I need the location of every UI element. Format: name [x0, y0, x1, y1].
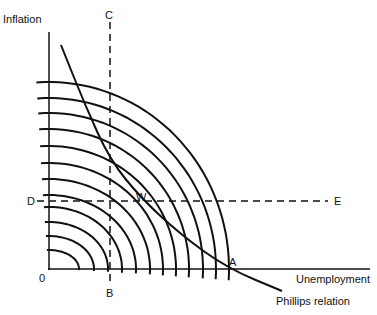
- indifference-arc: [45, 222, 108, 272]
- point-w-label: W: [136, 192, 146, 203]
- indifference-curves: [36, 82, 229, 280]
- x-axis-label: Unemployment: [296, 274, 370, 285]
- indifference-arc: [42, 179, 150, 274]
- y-axis-label: Inflation: [3, 14, 42, 25]
- diagram-canvas: [0, 0, 377, 315]
- origin-label: 0: [39, 273, 45, 284]
- indifference-arc: [46, 236, 94, 271]
- phillips-curve: [61, 45, 282, 291]
- point-a-label: A: [229, 257, 236, 268]
- point-e-label: E: [334, 196, 341, 207]
- phillips-curve-label: Phillips relation: [276, 296, 350, 307]
- point-b-label: B: [106, 288, 113, 299]
- indifference-arc: [39, 129, 189, 277]
- point-d-label: D: [27, 196, 35, 207]
- point-c-label: C: [105, 10, 113, 21]
- indifference-arc: [47, 250, 79, 270]
